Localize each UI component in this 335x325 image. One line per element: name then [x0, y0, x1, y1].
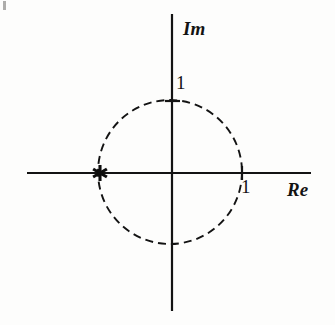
complex-plane-figure: Im Re 1 1	[0, 0, 335, 325]
real-unit-tick-label: 1	[241, 177, 251, 196]
real-axis-label: Re	[287, 180, 309, 199]
plot-canvas	[0, 0, 335, 325]
imaginary-unit-tick-label: 1	[176, 73, 186, 92]
imaginary-axis-label: Im	[183, 19, 206, 38]
